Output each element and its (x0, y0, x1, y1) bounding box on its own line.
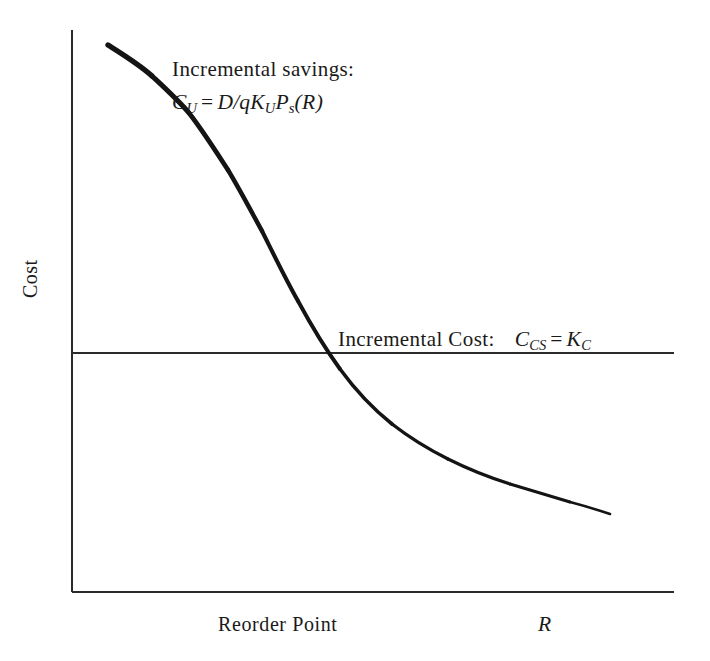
cost-formula-lhs-variable: C (515, 327, 530, 351)
formula-rhs-argument: (R) (294, 90, 323, 114)
formula-rhs-term-one: D/qK (217, 90, 264, 114)
incremental-savings-annotation: Incremental savings: CU=D/qKUPs(R) (172, 56, 354, 118)
cost-formula-lhs-subscript: CS (529, 337, 546, 353)
formula-lhs-variable: C (172, 90, 187, 114)
formula-lhs-subscript: U (187, 100, 198, 116)
incremental-cost-label: Incremental Cost: (338, 327, 495, 351)
formula-rhs-term-one-subscript: U (265, 100, 276, 116)
formula-rhs-term-two: P (275, 90, 288, 114)
x-axis-variable-label: R (538, 611, 551, 638)
chart-figure: Incremental savings: CU=D/qKUPs(R) Incre… (0, 0, 710, 661)
cost-formula-rhs-subscript: C (581, 337, 591, 353)
x-axis-title: Reorder Point (218, 612, 337, 637)
incremental-cost-formula: CCS=KC (515, 327, 591, 351)
formula-equals-sign: = (197, 90, 217, 114)
incremental-cost-annotation: Incremental Cost:CCS=KC (338, 326, 591, 354)
incremental-savings-formula: CU=D/qKUPs(R) (172, 89, 354, 117)
y-axis-title: Cost (18, 259, 43, 298)
incremental-savings-label: Incremental savings: (172, 56, 354, 82)
cost-formula-equals-sign: = (546, 327, 566, 351)
cost-formula-rhs-variable: K (567, 327, 582, 351)
